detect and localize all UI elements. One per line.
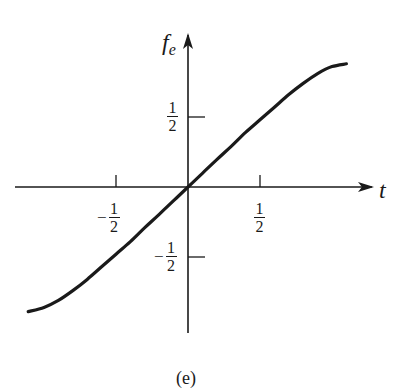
fraction-numerator: 1 [256,201,264,216]
fraction-denominator: 2 [169,118,177,133]
x-axis-label: t [379,178,386,202]
y-axis-label-base: f [162,29,169,55]
figure-caption: (e) [176,369,196,387]
minus-sign: − [97,209,107,226]
fraction-numerator: 1 [167,240,175,255]
y-axis-label: fe [162,30,176,58]
fraction-numerator: 1 [110,201,118,216]
y-tick-label: 12 [167,100,178,133]
y-axis-label-subscript: e [169,41,176,58]
fraction-denominator: 2 [167,258,175,273]
plot-area [0,0,402,391]
fraction-denominator: 2 [256,219,264,234]
x-tick-label: −12 [97,201,120,234]
y-tick-label: −12 [154,240,177,273]
x-tick-label: 12 [254,201,265,234]
fraction-numerator: 1 [169,100,177,115]
minus-sign: − [154,248,164,265]
fraction-denominator: 2 [110,219,118,234]
